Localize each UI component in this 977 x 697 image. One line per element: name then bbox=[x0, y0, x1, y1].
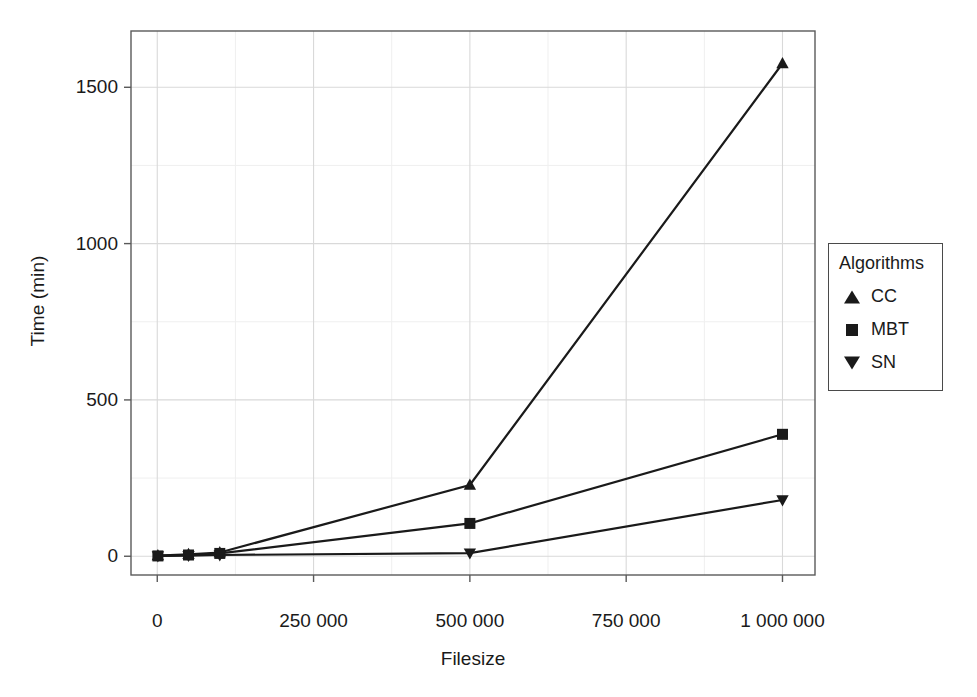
y-axis-tick-labels: 050010001500 bbox=[40, 0, 118, 697]
x-tick-label: 1 000 000 bbox=[740, 610, 825, 632]
square-icon bbox=[846, 324, 858, 336]
y-tick-label: 0 bbox=[48, 545, 118, 567]
legend-marker bbox=[839, 284, 865, 310]
square-icon bbox=[464, 518, 475, 529]
legend-entries: CCMBTSN bbox=[839, 280, 932, 379]
chart-figure: 050010001500 0250 000500 000750 0001 000… bbox=[0, 0, 977, 697]
y-tick-label: 1500 bbox=[48, 76, 118, 98]
square-icon bbox=[777, 429, 788, 440]
panel-background bbox=[131, 31, 815, 575]
x-tick-label: 750 000 bbox=[592, 610, 661, 632]
triangle-up-icon bbox=[844, 290, 860, 303]
y-tick-label: 1000 bbox=[48, 233, 118, 255]
legend: Algorithms CCMBTSN bbox=[828, 243, 943, 391]
legend-entry-sn: SN bbox=[839, 346, 932, 379]
x-tick-label: 250 000 bbox=[279, 610, 348, 632]
legend-title: Algorithms bbox=[839, 253, 932, 274]
legend-label: MBT bbox=[871, 319, 909, 340]
legend-marker bbox=[839, 317, 865, 343]
legend-label: CC bbox=[871, 286, 897, 307]
x-tick-label: 0 bbox=[152, 610, 163, 632]
y-tick-label: 500 bbox=[48, 389, 118, 411]
legend-marker bbox=[839, 350, 865, 376]
x-axis-title: Filesize bbox=[131, 648, 815, 670]
legend-entry-mbt: MBT bbox=[839, 313, 932, 346]
y-axis-title: Time (min) bbox=[27, 201, 49, 401]
legend-label: SN bbox=[871, 352, 896, 373]
legend-entry-cc: CC bbox=[839, 280, 932, 313]
x-tick-label: 500 000 bbox=[436, 610, 505, 632]
triangle-down-icon bbox=[844, 356, 860, 369]
